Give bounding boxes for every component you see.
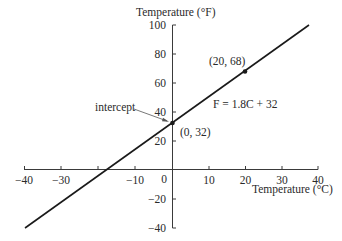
x-tick-label: −40: [15, 174, 33, 186]
point-20-68: [243, 69, 248, 74]
point-label-20-68: (20, 68): [209, 55, 246, 68]
temperature-conversion-chart: Temperature (°F) Temperature (°C) −40 −3…: [0, 0, 342, 241]
y-axis-label: Temperature (°F): [136, 6, 216, 19]
y-tick-label: 100: [149, 19, 167, 31]
y-tick-label: 60: [155, 77, 167, 89]
x-tick-label: 0: [161, 173, 167, 185]
intercept-arrowhead: [162, 118, 169, 122]
x-tick-label: −30: [52, 174, 70, 186]
x-tick-label: 40: [312, 174, 324, 186]
x-tick-label: 20: [240, 174, 252, 186]
point-label-0-32: (0, 32): [180, 126, 211, 139]
chart-container: Temperature (°F) Temperature (°C) −40 −3…: [0, 0, 342, 241]
y-tick-label: −20: [148, 193, 166, 205]
y-tick-label: 80: [155, 48, 167, 60]
y-tick-label: 40: [155, 106, 167, 118]
intercept-annotation: intercept: [95, 101, 136, 114]
point-intercept: [170, 121, 175, 126]
x-tick-label: −10: [126, 174, 144, 186]
y-tick-label: −40: [148, 222, 166, 234]
y-tick-label: 20: [155, 135, 167, 147]
equation-label: F = 1.8C + 32: [213, 98, 278, 110]
conversion-line: [25, 25, 309, 228]
x-tick-label: 10: [203, 174, 215, 186]
x-tick-label: 30: [276, 174, 288, 186]
